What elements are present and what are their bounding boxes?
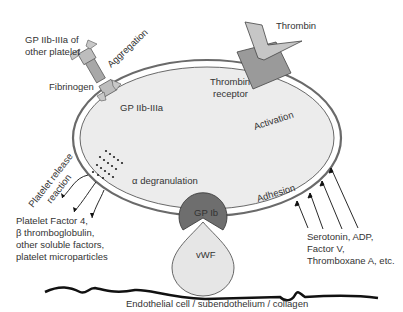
label-agonists-1: Serotonin, ADP, bbox=[307, 231, 373, 242]
label-gp2b3a: GP IIb-IIIa bbox=[120, 102, 164, 113]
label-agonists-2: Factor V, bbox=[307, 243, 345, 254]
label-thrombin: Thrombin bbox=[276, 20, 316, 31]
label-aggregation: Aggregation bbox=[105, 26, 150, 69]
label-substrate: Endothelial cell / subendothelium / coll… bbox=[126, 298, 308, 309]
label-released-factors-1: Platelet Factor 4, bbox=[16, 215, 88, 226]
label-released-factors-3: other soluble factors, bbox=[16, 239, 104, 250]
label-gp2b3a-other-line1: GP IIb-IIIa of bbox=[25, 34, 79, 45]
label-thrombin-receptor-line2: receptor bbox=[213, 88, 248, 99]
label-released-factors-2: β thromboglobulin, bbox=[16, 227, 94, 238]
label-fibrinogen: Fibrinogen bbox=[49, 81, 94, 92]
platelet-diagram: GP IIb-IIIa of other platelet Aggregatio… bbox=[0, 0, 403, 312]
label-released-factors-4: platelet microparticles bbox=[16, 251, 108, 262]
label-vwf: vWF bbox=[196, 249, 216, 260]
label-gp1b: GP Ib bbox=[194, 207, 218, 218]
label-thrombin-receptor-line1: Thrombin bbox=[210, 76, 250, 87]
label-alpha-degranulation: α degranulation bbox=[132, 175, 198, 186]
label-agonists-3: Thromboxane A, etc. bbox=[307, 255, 395, 266]
label-gp2b3a-other-line2: other platelet bbox=[25, 46, 80, 57]
